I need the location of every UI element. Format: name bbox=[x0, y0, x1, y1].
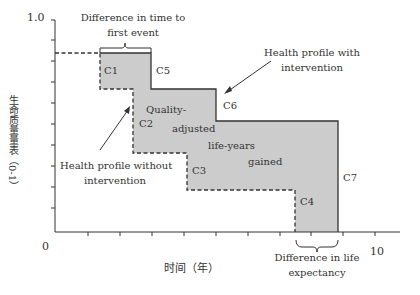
y-ticks bbox=[51, 40, 55, 208]
x-ticks bbox=[88, 232, 375, 236]
time-difference-brace bbox=[100, 43, 151, 53]
life-expectancy-label-1: Difference in life bbox=[267, 252, 367, 264]
y-top-tick-label: 1.0 bbox=[27, 12, 45, 24]
region-c1-label: C1 bbox=[104, 65, 118, 77]
time-difference-label-2: first event bbox=[78, 27, 188, 39]
qaly-label-4: gained bbox=[248, 156, 282, 168]
x-end-tick-label: 10 bbox=[370, 246, 384, 258]
arrowhead-icon bbox=[124, 106, 130, 114]
without-intervention-label-2: intervention bbox=[60, 175, 170, 187]
time-difference-label-1: Difference in time to bbox=[78, 12, 188, 24]
region-c5-label: C5 bbox=[156, 65, 170, 77]
life-expectancy-brace bbox=[296, 240, 338, 252]
life-expectancy-label-2: expectancy bbox=[267, 267, 367, 279]
qaly-label-1: Quality- bbox=[146, 104, 186, 116]
arrowhead-icon bbox=[224, 86, 232, 94]
region-c7-label: C7 bbox=[343, 172, 357, 184]
x-axis-label: 时间（年） bbox=[164, 263, 219, 275]
qaly-label-3: life-years bbox=[208, 140, 255, 152]
region-c3-label: C3 bbox=[192, 165, 206, 177]
without-intervention-arrow bbox=[100, 110, 128, 150]
region-c6-label: C6 bbox=[223, 100, 237, 112]
with-intervention-label-1: Health profile with bbox=[262, 47, 362, 59]
region-c4-label: C4 bbox=[300, 196, 314, 208]
region-c2-label: C2 bbox=[139, 118, 153, 130]
with-intervention-label-2: intervention bbox=[262, 62, 362, 74]
y-axis-label: 生命质量量表（0-1） bbox=[4, 95, 18, 191]
without-intervention-label-1: Health profile without bbox=[60, 160, 170, 172]
origin-label: 0 bbox=[42, 241, 49, 253]
qaly-label-2: adjusted bbox=[172, 123, 215, 135]
